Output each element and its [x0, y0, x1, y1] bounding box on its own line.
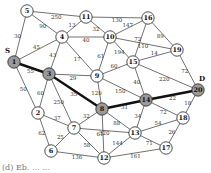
edge-weight: 150: [115, 88, 126, 94]
edge-weight: 62: [38, 130, 45, 136]
edge-weight: 31: [121, 104, 128, 110]
edge-weight: 29: [69, 75, 76, 81]
edge-weight: 43: [49, 52, 56, 58]
node-20: 20: [192, 84, 204, 96]
edge-weight: 147: [122, 22, 133, 28]
graph-diagram: 2509030131303240454317147728911019461147…: [0, 0, 211, 173]
edge-weight: 45: [33, 44, 40, 50]
node-label: 1: [12, 58, 17, 66]
node-label: 16: [143, 14, 153, 22]
edge-weight: 90: [39, 23, 46, 29]
node-16: 16: [142, 12, 154, 24]
edge-weight: 89: [157, 33, 164, 39]
edge-weight: 250: [51, 14, 62, 20]
edge-weight: 55: [27, 68, 34, 74]
edge-weight: 14: [151, 50, 158, 56]
edge-weight: 18: [184, 100, 191, 106]
node-9: 9: [91, 70, 103, 82]
edge-weight: 220: [159, 76, 170, 82]
node-8: 8: [96, 103, 108, 115]
node-14: 14: [140, 94, 152, 106]
node-label: 11: [81, 13, 90, 21]
source-label: S: [5, 46, 10, 55]
nodes-layer: 5111641019139152014827181361217: [8, 5, 204, 164]
edge-weight: 72: [160, 109, 167, 115]
node-4: 4: [56, 31, 68, 43]
destination-label: D: [199, 74, 205, 83]
edge-weight: 17: [74, 56, 81, 62]
edge-weight: 40: [133, 79, 140, 85]
node-label: 20: [193, 86, 203, 94]
node-5: 5: [21, 5, 33, 17]
node-label: 19: [172, 46, 182, 54]
node-11: 11: [80, 11, 92, 23]
node-label: 7: [72, 124, 77, 132]
node-10: 10: [104, 31, 116, 43]
edge-weight: 37: [54, 115, 61, 121]
edge-weight: 54: [155, 120, 162, 126]
edge-weight: 320: [99, 130, 110, 136]
edge-weight: 161: [130, 153, 141, 159]
node-label: 10: [105, 33, 115, 41]
node-label: 14: [141, 96, 151, 104]
node-label: 17: [161, 144, 170, 152]
node-label: 13: [130, 129, 140, 137]
edge-weight: 22: [169, 95, 176, 101]
edge-weight: 50: [20, 86, 27, 92]
node-label: 8: [100, 105, 105, 113]
edge-weight: 30: [14, 33, 21, 39]
node-2: 2: [32, 107, 44, 119]
edge-weight: 34: [134, 113, 141, 119]
node-17: 17: [160, 142, 172, 154]
edge-weight: 130: [112, 17, 123, 23]
edge-weight: 72: [134, 36, 141, 42]
edge-weight: 35: [70, 91, 77, 97]
edge-weight: 25: [57, 134, 64, 140]
edge-weight: 250: [54, 99, 65, 105]
edge-weight: 40: [83, 37, 90, 43]
node-15: 15: [127, 56, 139, 68]
node-3: 3: [43, 68, 55, 80]
node-label: 15: [128, 58, 138, 66]
node-6: 6: [45, 145, 57, 157]
node-label: 5: [25, 7, 30, 15]
node-12: 12: [98, 152, 110, 164]
node-label: 3: [47, 70, 52, 78]
edge-weight: 60: [37, 90, 44, 96]
edge-weight: 194: [114, 49, 125, 55]
node-label: 18: [178, 114, 188, 122]
edge-weight: 120: [91, 90, 102, 96]
node-label: 12: [99, 154, 108, 162]
edge-weight: 88: [113, 120, 120, 126]
node-1: 1: [8, 56, 20, 68]
figure-caption: (d) Eb. ... ...: [2, 163, 50, 172]
edge-weight: 58: [83, 142, 90, 148]
edge-weight: 136: [72, 154, 83, 160]
edge-weight: 32: [93, 26, 100, 32]
edge-weight: 13: [69, 22, 76, 28]
node-label: 4: [60, 33, 65, 41]
edge-weight: 32: [83, 113, 90, 119]
edge-weight: 110: [138, 43, 149, 49]
edge-weight: 26: [168, 129, 175, 135]
node-18: 18: [177, 112, 189, 124]
node-13: 13: [129, 127, 141, 139]
edge-weight: 71: [146, 140, 153, 146]
edge-weight: 144: [112, 140, 123, 146]
node-7: 7: [68, 122, 80, 134]
edge-weight: 61: [97, 53, 104, 59]
node-19: 19: [171, 44, 183, 56]
edge-weight: 72: [181, 68, 188, 74]
node-label: 9: [95, 72, 100, 80]
edge-weight: 60: [110, 63, 117, 69]
node-label: 6: [49, 147, 54, 155]
node-label: 2: [36, 109, 41, 117]
